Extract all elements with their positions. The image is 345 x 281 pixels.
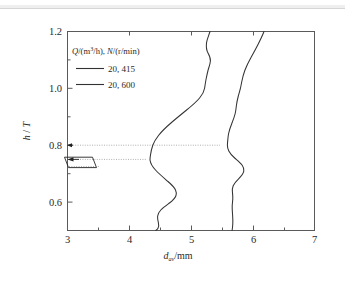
x-axis-title: dav/mm	[163, 250, 192, 262]
y-axis-title: h / T	[21, 120, 32, 140]
x-axis-title-tail: /mm	[174, 250, 193, 261]
y-tick-label-2: 1.0	[49, 83, 62, 94]
legend-item-0[interactable]: 20, 415	[76, 64, 136, 74]
x-axis-top-ticks	[130, 32, 254, 36]
chart-svg: 3 4 5 6 7 0.6 0.8 1.0 1.2 dav/mm h / T	[0, 0, 345, 281]
x-tick-label-3: 6	[251, 234, 256, 245]
chart-figure: 3 4 5 6 7 0.6 0.8 1.0 1.2 dav/mm h / T	[0, 0, 345, 281]
legend-label-1: 20, 600	[108, 80, 136, 90]
y-tick-label-0: 0.6	[49, 197, 62, 208]
y-axis-title-slash: /	[21, 127, 32, 135]
legend-title: Q/(m3/h), N/(r/min)	[72, 45, 140, 56]
legend-title-n-units: /(r/min)	[113, 46, 140, 56]
series-curve-1	[227, 32, 264, 231]
x-tick-label-0: 3	[65, 234, 70, 245]
y-axis-title-T: T	[21, 120, 32, 127]
legend-title-q-units: /(m	[78, 46, 90, 56]
series-curve-0	[150, 32, 210, 231]
legend: Q/(m3/h), N/(r/min) 20, 415 20, 600	[72, 45, 140, 90]
x-axis-major-ticks	[68, 226, 315, 231]
x-tick-label-4: 7	[312, 234, 317, 245]
legend-item-1[interactable]: 20, 600	[76, 80, 136, 90]
legend-title-q-units-tail: /h),	[93, 46, 107, 56]
x-tick-label-1: 4	[127, 234, 133, 245]
y-tick-label-3: 1.2	[49, 26, 62, 37]
svg-text:h / T: h / T	[21, 120, 32, 140]
legend-label-0: 20, 415	[108, 64, 136, 74]
x-tick-label-2: 5	[189, 234, 194, 245]
plot-frame	[68, 32, 315, 231]
arrow-lower-annotation	[68, 157, 80, 161]
svg-text:dav/mm: dav/mm	[163, 250, 192, 262]
y-tick-label-1: 0.8	[49, 140, 62, 151]
